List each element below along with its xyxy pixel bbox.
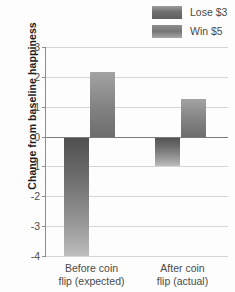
bar-win-0[interactable]	[90, 72, 115, 136]
gridline	[46, 47, 228, 48]
bar-lose-0[interactable]	[64, 137, 89, 256]
y-tick-label: 3	[34, 41, 40, 53]
gridline	[46, 77, 228, 78]
chart-figure: Lose $3 Win $5 Change from baseline happ…	[0, 0, 235, 292]
legend-item-lose[interactable]: Lose $3	[152, 5, 227, 19]
plot-area: 3210-1-2-3-4	[46, 47, 228, 256]
x-category-label-0-line1: Before coin	[46, 262, 137, 275]
y-tick-label: -3	[31, 220, 40, 232]
y-tick-label: 1	[34, 101, 40, 113]
y-tick-label: -4	[31, 250, 40, 262]
y-tick-mark	[42, 256, 46, 257]
y-tick-label: 0	[34, 131, 40, 143]
bar-win-1[interactable]	[181, 99, 206, 136]
x-category-label-0: Before coin flip (expected)	[46, 262, 137, 287]
legend-item-win[interactable]: Win $5	[152, 24, 223, 38]
y-tick-label: -2	[31, 190, 40, 202]
x-category-label-1: After coin flip (actual)	[137, 262, 228, 287]
x-category-label-1-line1: After coin	[137, 262, 228, 275]
legend-label-win: Win $5	[190, 25, 223, 38]
y-tick-mark	[42, 77, 46, 78]
y-tick-mark	[42, 47, 46, 48]
y-tick-label: 2	[34, 71, 40, 83]
gridline	[46, 256, 228, 257]
x-category-label-0-line2: flip (expected)	[46, 275, 137, 288]
y-tick-mark	[42, 226, 46, 227]
zero-line	[46, 137, 228, 138]
y-tick-mark	[42, 107, 46, 108]
y-axis-line	[45, 47, 46, 256]
bar-lose-1[interactable]	[155, 137, 180, 167]
chart-legend: Lose $3 Win $5	[152, 3, 234, 41]
y-tick-label: -1	[31, 160, 40, 172]
y-tick-mark	[42, 166, 46, 167]
y-tick-mark	[42, 196, 46, 197]
legend-label-lose: Lose $3	[190, 6, 227, 19]
legend-swatch-win-icon	[152, 25, 182, 38]
legend-swatch-lose-icon	[152, 6, 182, 19]
x-category-label-1-line2: flip (actual)	[137, 275, 228, 288]
